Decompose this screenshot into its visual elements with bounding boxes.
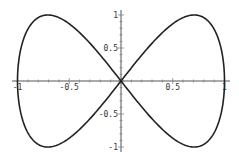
y-tick-label: 0.5: [104, 44, 119, 53]
plot-area: -1-0.50.5110.5-0.5-1: [0, 0, 239, 161]
x-tick-label: -0.5: [60, 83, 79, 92]
y-tick-label: -1: [108, 143, 118, 152]
y-tick-label: 1: [113, 11, 118, 20]
x-tick-label: 0.5: [166, 83, 181, 92]
y-tick-label: -0.5: [99, 110, 118, 119]
figure-eight-plot: -1-0.50.5110.5-0.5-1: [0, 0, 239, 161]
